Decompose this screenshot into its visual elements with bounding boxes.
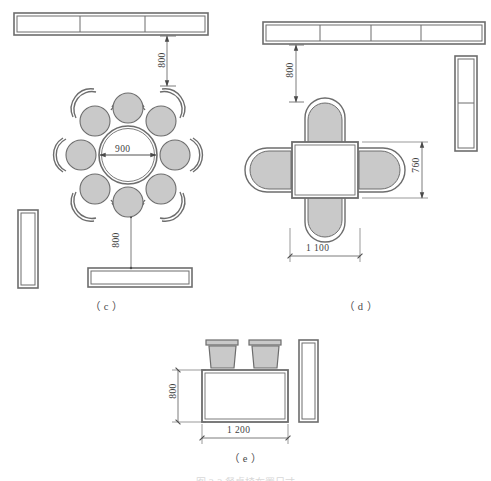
dim-label-c-clearance-bottom: 800 xyxy=(111,230,121,250)
chair xyxy=(357,148,405,192)
figure-d-top-counter xyxy=(263,22,485,44)
dim-label-d-table-width: 1 100 xyxy=(306,243,329,253)
chair xyxy=(111,93,145,123)
sheet-caption: 图 3-3 餐桌椅布置尺寸 xyxy=(0,474,491,481)
drawing-sheet: 800 900 800 800 760 1 100 800 1 200 （ c … xyxy=(0,0,491,481)
figure-c-top-counter xyxy=(14,13,208,35)
dim-label-e-table-depth: 800 xyxy=(168,381,178,401)
chair xyxy=(160,138,202,172)
chair xyxy=(71,174,110,221)
chair xyxy=(146,89,185,136)
figure-d-right-counter xyxy=(455,56,477,151)
chair xyxy=(146,174,185,221)
dim-label-c-clearance-top: 800 xyxy=(157,50,167,70)
chair xyxy=(305,98,345,146)
chair xyxy=(71,89,110,136)
chair xyxy=(245,148,293,192)
chair xyxy=(206,340,238,368)
figure-label-c: （ c ） xyxy=(90,298,122,313)
furniture-layout-drawing xyxy=(0,0,491,481)
chair xyxy=(111,187,145,217)
dim-label-c-table-diameter: 900 xyxy=(115,144,130,154)
round-dining-table xyxy=(99,126,157,184)
chair xyxy=(249,340,281,368)
figure-c-bottom-counter xyxy=(88,268,192,287)
dim-label-d-table-depth: 760 xyxy=(411,155,421,175)
figure-d-group xyxy=(245,22,485,262)
figure-c-left-counter xyxy=(18,210,38,288)
chair xyxy=(305,194,345,242)
rectangular-dining-table xyxy=(292,142,358,198)
figure-label-d: （ d ） xyxy=(344,298,377,313)
chair xyxy=(54,138,96,172)
dim-label-d-clearance-top: 800 xyxy=(285,60,295,80)
rectangular-table xyxy=(202,370,288,422)
figure-e-right-counter xyxy=(299,340,318,422)
figure-label-e: （ e ） xyxy=(229,450,261,465)
dim-label-e-table-width: 1 200 xyxy=(227,425,250,435)
